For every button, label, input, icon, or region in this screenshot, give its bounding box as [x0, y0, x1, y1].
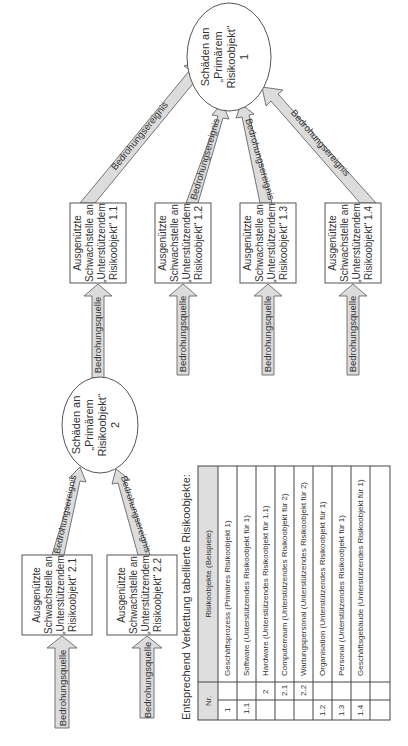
svg-text:„Unterstützendem: „Unterstützendem [55, 555, 66, 634]
svg-text:Risikoobjekt“ 1.1: Risikoobjekt“ 1.1 [108, 206, 119, 280]
svg-text:Risikoobjekt“ 1.3: Risikoobjekt“ 1.3 [278, 206, 289, 280]
svg-text:1.4: 1.4 [356, 704, 365, 716]
svg-text:Personal (Unterstützendes Risi: Personal (Unterstützendes Risikoobjekt f… [337, 515, 346, 676]
svg-text:2.2: 2.2 [299, 684, 308, 696]
svg-text:„Unterstützendem: „Unterstützendem [266, 203, 277, 282]
event-label: Bedrohungsereignis [289, 107, 353, 178]
event-arrow-1-2: Bedrohungsereignis [186, 103, 229, 203]
risk-chain-diagram: Bedrohungsereignis Bedrohungsereignis Be… [0, 0, 408, 746]
table-row: 2 Hardware (Unterstützendes Risikoobjekt… [261, 505, 270, 694]
event-arrow-1-4: Bedrohungsereignis [262, 87, 376, 203]
svg-text:Ausgenützte: Ausgenützte [242, 215, 253, 271]
svg-text:„Unterstützendem: „Unterstützendem [96, 203, 107, 282]
supporting-object-1-1: Ausgenützte Schwachstelle an „Unterstütz… [70, 203, 126, 283]
table-row: 1 Geschäftsprozess (Primäres Risikoobjek… [223, 520, 232, 712]
svg-text:„Primärem: „Primärem [83, 399, 95, 450]
supporting-object-1-2: Ausgenützte Schwachstelle an „Unterstütz… [155, 203, 211, 283]
source-arrow-1-2: Bedrohungsquelle [169, 284, 197, 375]
header-objects: Risikoobjekte (Beispiele) [204, 530, 213, 618]
event-arrow-1-1: Bedrohungsereignis [80, 60, 206, 203]
svg-text:„Unterstützendem: „Unterstützendem [140, 555, 151, 634]
supporting-object-2-1: Ausgenützte Schwachstelle an „Unterstütz… [22, 555, 92, 635]
supporting-object-2-2: Ausgenützte Schwachstelle an „Unterstütz… [107, 555, 177, 635]
svg-text:Risikoobjekt“: Risikoobjekt“ [225, 25, 237, 88]
event-arrow-2-1: Bedrohungsereignis [52, 467, 86, 555]
table-row: 1.4 Geschäftsgebäude (Unterstützendes Ri… [356, 479, 365, 716]
svg-text:Risikoobjekt“: Risikoobjekt“ [96, 393, 108, 456]
svg-text:Schwachstelle an: Schwachstelle an [169, 204, 180, 282]
svg-text:Bedrohungsquelle: Bedrohungsquelle [262, 296, 273, 373]
svg-text:Risikoobjekt“ 2.2: Risikoobjekt“ 2.2 [152, 558, 163, 632]
svg-text:Risikoobjekt“ 2.1: Risikoobjekt“ 2.1 [67, 558, 78, 632]
svg-text:Hardware (Unterstützendes Risi: Hardware (Unterstützendes Risikoobjekt f… [261, 505, 270, 676]
svg-text:Schwachstelle an: Schwachstelle an [43, 556, 54, 634]
svg-text:1: 1 [223, 707, 232, 712]
primary-risk-object-2: Schäden an „Primärem Risikoobjekt“ 2 [62, 377, 138, 473]
svg-text:Bedrohungsquelle: Bedrohungsquelle [142, 642, 153, 719]
event-label: Bedrohungsereignis [108, 99, 170, 172]
header-nr: Nr. [204, 696, 213, 706]
svg-text:Ausgenützte: Ausgenützte [157, 215, 168, 271]
svg-text:Wartungspersonal (Unterstützen: Wartungspersonal (Unterstützendes Risiko… [299, 482, 308, 676]
svg-text:Geschäftsprozess (Primäres Ris: Geschäftsprozess (Primäres Risikoobjekt … [223, 520, 232, 676]
svg-text:2.1: 2.1 [280, 684, 289, 696]
svg-text:1: 1 [238, 54, 250, 60]
svg-text:Risikoobjekt“ 1.2: Risikoobjekt“ 1.2 [193, 206, 204, 280]
svg-text:Ausgenützte: Ausgenützte [116, 567, 127, 623]
svg-text:Schwachstelle an: Schwachstelle an [84, 204, 95, 282]
event-arrow-2-2: Bedrohungsereignis [112, 469, 153, 555]
source-arrow-2-2: Bedrohungsquelle [132, 636, 162, 718]
svg-text:Ausgenützte: Ausgenützte [31, 567, 42, 623]
svg-text:2: 2 [261, 689, 270, 694]
svg-text:2: 2 [109, 422, 121, 428]
svg-text:Computerraum (Unterstützendes: Computerraum (Unterstützendes Risikoobje… [280, 493, 289, 676]
event-label: Bedrohungsereignis [188, 117, 222, 202]
svg-text:1.1: 1.1 [242, 702, 251, 714]
svg-text:„Unterstützendem: „Unterstützendem [181, 203, 192, 282]
supporting-object-1-4: Ausgenützte Schwachstelle an „Unterstütz… [325, 203, 381, 283]
source-arrow-1-4: Bedrohungsquelle [339, 284, 367, 375]
svg-text:Ausgenützte: Ausgenützte [327, 215, 338, 271]
svg-text:1.2: 1.2 [318, 704, 327, 716]
svg-text:Risikoobjekt“ 1.4: Risikoobjekt“ 1.4 [363, 206, 374, 280]
table-row: 1.3 Personal (Unterstützendes Risikoobje… [337, 515, 346, 716]
table-row: 1.1 Software (Unterstützendes Risikoobje… [242, 515, 251, 714]
table-row: 2.2 Wartungspersonal (Unterstützendes Ri… [299, 482, 308, 696]
source-arrow-2-1: Bedrohungsquelle [47, 636, 77, 728]
table-row: 2.1 Computerraum (Unterstützendes Risiko… [280, 493, 289, 696]
svg-text:Geschäftsgebäude (Unterstützen: Geschäftsgebäude (Unterstützendes Risiko… [356, 479, 365, 676]
table-caption: Entsprechend Verkettung tabellierte Risi… [180, 474, 192, 720]
svg-text:1.3: 1.3 [337, 704, 346, 716]
svg-text:Schwachstelle an: Schwachstelle an [339, 204, 350, 282]
svg-text:Ausgenützte: Ausgenützte [72, 215, 83, 271]
event-arrow-1-3: Bedrohungsereignis [236, 104, 277, 203]
svg-text:„Primärem: „Primärem [212, 31, 224, 82]
primary-risk-object-1: Schäden an „Primärem Risikoobjekt“ 1 [187, 3, 271, 111]
svg-text:Bedrohungsquelle: Bedrohungsquelle [92, 297, 103, 374]
svg-text:Schwachstelle an: Schwachstelle an [254, 204, 265, 282]
svg-text:„Unterstützendem: „Unterstützendem [351, 203, 362, 282]
svg-text:Bedrohungsquelle: Bedrohungsquelle [347, 296, 358, 373]
risk-object-table: Nr. Risikoobjekte (Beispiele) 1 Geschäft… [198, 466, 390, 720]
svg-text:Schäden an: Schäden an [199, 28, 211, 87]
table-row: 1.2 Organisation (Unterstützendes Risiko… [318, 501, 327, 716]
svg-text:Organisation (Unterstützendes: Organisation (Unterstützendes Risikoobje… [318, 501, 327, 676]
svg-text:Bedrohungsquelle: Bedrohungsquelle [177, 296, 188, 373]
source-arrow-1-1: Bedrohungsquelle [84, 284, 112, 378]
svg-text:Software (Unterstützendes Risi: Software (Unterstützendes Risikoobjekt f… [242, 515, 251, 676]
svg-text:Schwachstelle an: Schwachstelle an [128, 556, 139, 634]
svg-text:Bedrohungsquelle: Bedrohungsquelle [57, 650, 68, 727]
svg-text:Schäden an: Schäden an [70, 396, 82, 455]
source-arrow-1-3: Bedrohungsquelle [254, 284, 282, 375]
supporting-object-1-3: Ausgenützte Schwachstelle an „Unterstütz… [240, 203, 296, 283]
